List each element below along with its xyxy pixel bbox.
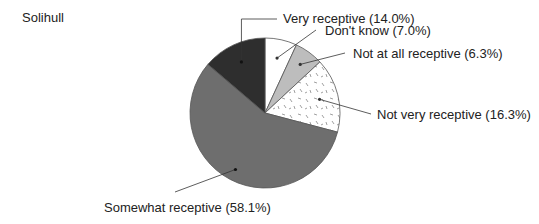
pie-slices bbox=[190, 38, 340, 188]
slice-label: Not at all receptive (6.3%) bbox=[353, 46, 503, 61]
slice-label: Very receptive (14.0%) bbox=[283, 11, 415, 26]
chart-title: Solihull bbox=[22, 10, 64, 25]
leader-dot bbox=[299, 63, 302, 66]
leader-dot bbox=[234, 168, 237, 171]
slice-label: Not very receptive (16.3%) bbox=[377, 107, 531, 122]
slice-label: Somewhat receptive (58.1%) bbox=[104, 200, 271, 215]
leader-dot bbox=[240, 60, 243, 63]
leader-dot bbox=[318, 98, 321, 101]
pie-chart: Solihull Don't know (7.0%)Not at all rec… bbox=[0, 0, 539, 224]
leader-line bbox=[175, 169, 235, 192]
leader-dot bbox=[275, 56, 278, 59]
